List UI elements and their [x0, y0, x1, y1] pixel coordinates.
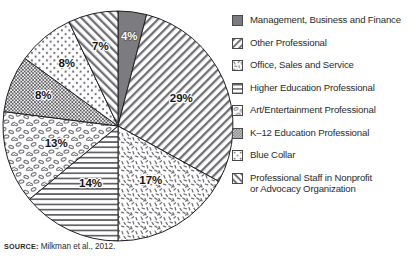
pie-slice-value-label: 17%: [139, 174, 162, 186]
pie-slice-value-label: 13%: [45, 137, 68, 149]
legend-item[interactable]: Management, Business and Finance: [232, 14, 409, 26]
pie-slice-value-label: 8%: [58, 57, 75, 69]
legend-swatch-speckle-icon: [232, 60, 243, 71]
legend-item[interactable]: Other Professional: [232, 37, 409, 49]
chart-legend: Management, Business and FinanceOther Pr…: [232, 14, 409, 205]
pie-slices: [3, 11, 233, 241]
legend-item-label: K–12 Education Professional: [250, 127, 369, 139]
legend-item[interactable]: K–12 Education Professional: [232, 127, 409, 139]
legend-swatch-diagonal-back-icon: [232, 173, 243, 184]
legend-item[interactable]: Professional Staff in Nonprofit or Advoc…: [232, 172, 409, 195]
pie-slice-value-label: 14%: [79, 177, 102, 189]
legend-item[interactable]: Higher Education Professional: [232, 82, 409, 94]
pie-slice-value-label: 8%: [35, 89, 52, 101]
legend-item[interactable]: Art/Entertainment Professional: [232, 104, 409, 116]
source-text: Milkman et al., 2012.: [39, 242, 116, 251]
pie-slice-value-label: 29%: [170, 92, 193, 104]
legend-item-label: Office, Sales and Service: [250, 59, 354, 71]
legend-item[interactable]: Blue Collar: [232, 149, 409, 161]
legend-swatch-diagonal-forward-icon: [232, 38, 243, 49]
legend-item-label: Art/Entertainment Professional: [250, 104, 376, 116]
legend-item-label: Higher Education Professional: [250, 82, 375, 94]
legend-swatch-ovals-icon: [232, 105, 243, 116]
legend-swatch-horizontal-lines-icon: [232, 83, 243, 94]
pie-slice-value-label: 4%: [121, 30, 138, 42]
legend-item-label: Management, Business and Finance: [250, 14, 401, 26]
pie-slice-value-label: 7%: [92, 40, 109, 52]
pie-chart: 4%29%17%14%13%8%8%7%: [0, 6, 238, 244]
legend-swatch-sparse-dots-icon: [232, 150, 243, 161]
pie-chart-figure: 4%29%17%14%13%8%8%7% Management, Busines…: [0, 0, 409, 260]
legend-item[interactable]: Office, Sales and Service: [232, 59, 409, 71]
legend-swatch-dense-dots-icon: [232, 128, 243, 139]
source-label: SOURCE:: [4, 242, 39, 251]
legend-swatch-solid-gray-icon: [232, 15, 243, 26]
legend-item-label: Blue Collar: [250, 149, 295, 161]
source-note: SOURCE: Milkman et al., 2012.: [4, 242, 115, 251]
legend-item-label: Professional Staff in Nonprofit or Advoc…: [250, 172, 372, 195]
legend-item-label: Other Professional: [250, 37, 327, 49]
